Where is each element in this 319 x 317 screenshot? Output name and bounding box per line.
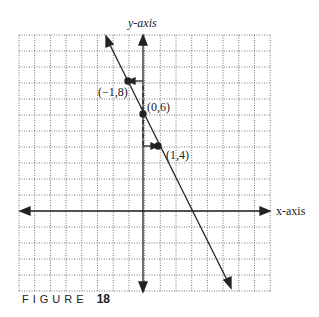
point-label: (−1,8) [98, 85, 128, 99]
point-label: (1,4) [166, 148, 189, 162]
figure-caption: FIGURE 18 [22, 292, 110, 306]
point-c [155, 143, 161, 149]
point-label: (0,6) [147, 100, 170, 114]
point-b [140, 111, 146, 117]
x-axis-label: x-axis [276, 204, 306, 218]
plotted-line [106, 37, 231, 288]
y-axis-label: y-axis [127, 16, 157, 30]
point-a [125, 78, 131, 84]
graph: y-axis x-axis (−1,8) (0,6) (1,4) [0, 0, 319, 317]
